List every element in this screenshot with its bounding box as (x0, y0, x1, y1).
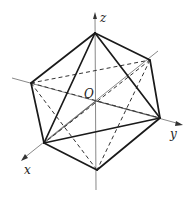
edge-top-right-back (95, 33, 150, 60)
y-axis-label: y (169, 127, 177, 141)
octahedron-diagram: z y x O (0, 0, 191, 200)
z-axis (95, 16, 96, 190)
x-axis-label: x (24, 163, 31, 177)
z-axis-arrowhead (93, 12, 97, 19)
edge-right-back-right-front (150, 60, 160, 118)
y-axis-arrowhead (175, 121, 183, 126)
z-axis-label: z (99, 11, 107, 25)
x-axis-arrowhead (21, 154, 28, 161)
edge-left-back-left-front (31, 83, 44, 143)
edge-top-right-front (95, 33, 160, 118)
edge-left-front-right-front (44, 118, 160, 143)
origin-label: O (84, 87, 94, 101)
edge-right-front-bottom (97, 118, 160, 170)
edge-left-front-bottom (44, 143, 97, 170)
edge-right-back-bottom (97, 60, 150, 170)
edge-top-left-back (31, 33, 95, 83)
